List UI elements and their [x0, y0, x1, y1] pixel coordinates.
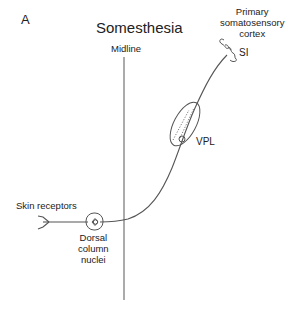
- vpl-nucleus-icon: [164, 98, 206, 151]
- somatosensory-pathway-line: [49, 55, 227, 222]
- pathway-diagram: [0, 0, 293, 316]
- skin-receptor-icon: [38, 216, 49, 229]
- cortex-gyri-icon: [220, 39, 237, 61]
